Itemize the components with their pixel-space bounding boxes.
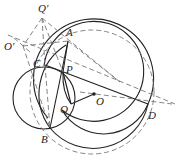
- geometry-diagram: Q' O' A C P Q O B D: [0, 0, 176, 160]
- label-B: B: [41, 134, 48, 145]
- label-O-prime: O': [4, 41, 14, 52]
- dashed-Op-cross: [14, 38, 30, 52]
- dashed-CB: [45, 65, 50, 128]
- circle-inner: [44, 21, 148, 134]
- label-Q: Q: [60, 104, 68, 115]
- dashed-Qp-Op: [23, 18, 42, 46]
- label-C: C: [33, 58, 40, 69]
- label-P: P: [66, 64, 73, 75]
- label-O: O: [96, 96, 104, 107]
- label-D: D: [148, 110, 156, 121]
- dashed-Qp-C: [42, 18, 45, 65]
- diagram-canvas: [0, 0, 176, 160]
- dashed-AD: [68, 41, 120, 82]
- dashed-Qp-P: [42, 18, 63, 72]
- label-Q-prime: Q': [38, 3, 48, 14]
- label-A: A: [66, 27, 73, 38]
- circle-small-left: [13, 67, 75, 129]
